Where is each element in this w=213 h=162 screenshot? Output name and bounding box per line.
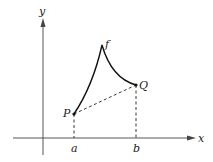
y-axis-label: y	[38, 5, 46, 18]
x-axis	[13, 136, 196, 141]
function-diagram: x y f P Q a b	[0, 0, 213, 162]
x-tick-a: a	[71, 142, 78, 155]
x-tick-b: b	[133, 142, 140, 155]
curve-f	[74, 45, 136, 114]
x-axis-arrow-icon	[187, 136, 196, 141]
point-p	[72, 112, 75, 115]
point-q	[134, 83, 137, 86]
y-axis	[41, 18, 46, 155]
point-p-label: P	[62, 107, 71, 120]
point-q-label: Q	[139, 79, 148, 92]
curve-label-f: f	[104, 38, 111, 51]
y-axis-arrow-icon	[41, 18, 46, 27]
x-axis-label: x	[198, 132, 205, 145]
